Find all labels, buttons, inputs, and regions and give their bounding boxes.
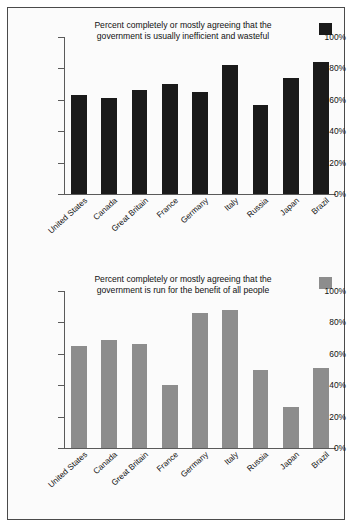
x-axis-labels-top: United StatesCanadaGreat BritainFranceGe… bbox=[64, 196, 336, 258]
chart-top-title-line1: Percent completely or mostly agreeing th… bbox=[94, 20, 271, 30]
y-tick-0% bbox=[58, 448, 65, 449]
x-tick-label: Canada bbox=[92, 450, 119, 476]
bar bbox=[71, 95, 87, 194]
x-tick-label: Russia bbox=[246, 196, 271, 219]
chart-top: Percent completely or mostly agreeing th… bbox=[8, 12, 346, 262]
chart-bottom: Percent completely or mostly agreeing th… bbox=[8, 266, 346, 516]
x-tick-label: Russia bbox=[246, 450, 271, 473]
bar bbox=[101, 340, 117, 448]
bar bbox=[222, 65, 238, 194]
x-tick-label: Canada bbox=[92, 196, 119, 222]
bar bbox=[132, 344, 148, 448]
x-axis-labels-bottom: United StatesCanadaGreat BritainFranceGe… bbox=[64, 450, 336, 512]
y-tick-0% bbox=[58, 194, 65, 195]
bar bbox=[222, 310, 238, 448]
x-tick-label: Germany bbox=[179, 196, 210, 225]
chart-bottom-title-line1: Percent completely or mostly agreeing th… bbox=[94, 274, 271, 284]
bar bbox=[313, 368, 329, 448]
bar bbox=[283, 78, 299, 194]
bars-top bbox=[64, 37, 336, 194]
x-tick-label: Italy bbox=[223, 450, 240, 467]
x-tick-label: Germany bbox=[179, 450, 210, 479]
x-tick-label: Japan bbox=[278, 450, 301, 472]
bar bbox=[71, 346, 87, 448]
x-axis-line-bottom bbox=[64, 448, 336, 449]
x-axis-line-top bbox=[64, 194, 336, 195]
bar bbox=[253, 105, 269, 194]
x-tick-label: France bbox=[155, 450, 180, 474]
bar bbox=[162, 385, 178, 448]
bar bbox=[192, 313, 208, 448]
x-tick-label: Japan bbox=[278, 196, 301, 218]
x-tick-label: United States bbox=[47, 196, 90, 236]
bar bbox=[101, 98, 117, 194]
x-tick-label: France bbox=[155, 196, 180, 220]
bar bbox=[313, 62, 329, 194]
bars-bottom bbox=[64, 291, 336, 448]
bar bbox=[253, 370, 269, 449]
x-tick-label: United States bbox=[47, 450, 90, 490]
bar bbox=[192, 92, 208, 194]
x-tick-label: Brazil bbox=[310, 196, 331, 216]
figure-frame: Percent completely or mostly agreeing th… bbox=[7, 7, 345, 520]
x-tick-label: Italy bbox=[223, 196, 240, 213]
bar bbox=[132, 90, 148, 194]
x-tick-label: Brazil bbox=[310, 450, 331, 470]
bar bbox=[162, 84, 178, 194]
bar bbox=[283, 407, 299, 448]
